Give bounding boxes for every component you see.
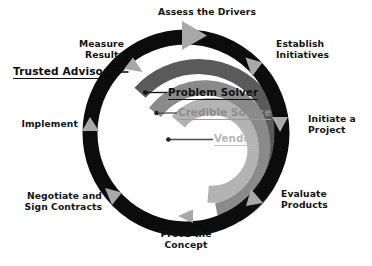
cycle-diagram: Assess the Drivers Establish Initiatives… (0, 0, 372, 266)
step-label-evaluate-products: Evaluate Products (281, 188, 359, 210)
label-vendor: Vendor (214, 132, 256, 146)
step-label-establish-initiatives: Establish Initiatives (276, 38, 356, 60)
ring-vendor (178, 106, 256, 194)
step-label-initiate-a-project: Initiate a Project (308, 113, 372, 135)
step-label-measure-results: Measure Results (58, 38, 124, 60)
step-label-prove-the-concept: Prove the Concept (146, 228, 226, 250)
step-label-negotiate-and-sign-contracts: Negotiate and Sign Contracts (18, 190, 102, 212)
label-credible-source: Credible Source (178, 106, 271, 120)
step-label-implement: Implement (8, 118, 78, 129)
connector-dot-problem-solver (143, 90, 148, 95)
label-problem-solver: Problem Solver (168, 86, 258, 100)
connector-dot-vendor (166, 137, 171, 142)
step-label-assess-the-drivers: Assess the Drivers (152, 6, 262, 17)
label-trusted-advisor: Trusted Advisor (13, 65, 108, 79)
connector-dot-credible-source (154, 111, 159, 116)
arrow-prove-the-concept (178, 210, 193, 224)
